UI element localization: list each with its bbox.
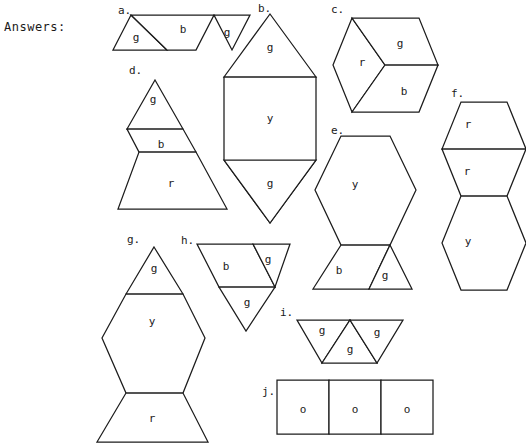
shape-e-piece-y-hexagon-label: y	[352, 178, 359, 191]
shape-f-piece-r-lower-label: r	[464, 165, 471, 178]
shape-b-piece-g-top-label: g	[267, 41, 274, 54]
shape-a-piece-g-right-label: g	[224, 26, 231, 39]
shape-b-piece-g-bottom	[224, 160, 316, 223]
shape-item-f: rryf.	[442, 87, 526, 290]
shape-item-d: gbrd.	[118, 64, 227, 209]
shape-g-piece-y-hexagon-label: y	[149, 315, 156, 328]
shape-d-piece-g-top-label: g	[150, 93, 157, 106]
shape-f-piece-r-lower	[442, 149, 526, 196]
shape-f-piece-r-upper-label: r	[465, 118, 472, 131]
shape-h-piece-b-left-label: b	[223, 260, 230, 273]
shape-item-a-tag: a.	[118, 4, 131, 17]
shape-f-piece-y-hexagon	[442, 196, 526, 290]
shape-item-h: bggh.	[181, 234, 290, 331]
shape-h-piece-g-right-label: g	[265, 253, 272, 266]
answer-sheet: Answers: gbga.gygb.rgbc.gbrd.ybge.rryf.g…	[0, 0, 526, 448]
shape-g-piece-r-bottom-label: r	[149, 412, 156, 425]
shape-item-g-tag: g.	[127, 233, 140, 246]
shape-f-piece-r-upper	[442, 102, 526, 149]
shape-i-piece-g-left-label: g	[319, 324, 326, 337]
shape-d-piece-r-bottom-label: r	[168, 177, 175, 190]
shape-item-i: gggi.	[280, 306, 403, 363]
shape-a-piece-g-left-label: g	[133, 31, 140, 44]
shape-item-e: ybge.	[313, 124, 416, 289]
shape-item-d-tag: d.	[129, 64, 142, 77]
shape-a-piece-g-right	[214, 15, 250, 50]
shape-g-piece-y-hexagon	[102, 294, 205, 393]
shape-item-h-tag: h.	[181, 234, 194, 247]
shape-i-piece-g-right-label: g	[374, 326, 381, 339]
shape-item-g: gyrg.	[97, 233, 208, 442]
shape-item-j: oooj.	[262, 380, 433, 434]
shape-item-f-tag: f.	[451, 87, 464, 100]
shape-item-c-tag: c.	[331, 3, 344, 16]
shape-h-piece-g-bottom-label: g	[244, 296, 251, 309]
shape-e-piece-g-lower-label: g	[382, 269, 389, 282]
shape-i-piece-g-middle-label: g	[347, 343, 354, 356]
shape-j-piece-o-1-label: o	[300, 403, 307, 416]
shape-b-piece-g-bottom-label: g	[267, 177, 274, 190]
shape-item-e-tag: e.	[331, 124, 344, 137]
shape-c-piece-b-lower-label: b	[401, 85, 408, 98]
shape-d-piece-b-middle-label: b	[158, 138, 165, 151]
shape-item-a: gbga.	[113, 4, 250, 50]
shape-item-i-tag: i.	[280, 306, 293, 319]
shape-f-piece-y-hexagon-label: y	[465, 235, 472, 248]
shape-a-piece-b-mid-label: b	[180, 23, 187, 36]
shape-diagram-canvas: gbga.gygb.rgbc.gbrd.ybge.rryf.gyrg.bggh.…	[0, 0, 526, 448]
shape-j-piece-o-3-label: o	[404, 403, 411, 416]
shape-e-piece-y-hexagon	[315, 136, 416, 245]
shape-b-piece-y-middle-label: y	[267, 112, 274, 125]
shape-item-b-tag: b.	[258, 2, 271, 15]
shape-e-piece-b-lower-label: b	[336, 264, 343, 277]
shape-j-piece-o-2-label: o	[352, 403, 359, 416]
shape-c-piece-g-upper-label: g	[397, 37, 404, 50]
shape-g-piece-g-top-label: g	[151, 262, 158, 275]
shape-h-piece-g-bottom	[219, 287, 275, 331]
shape-item-j-tag: j.	[262, 385, 275, 398]
shape-item-c: rgbc.	[331, 3, 438, 112]
shape-c-piece-r-left-label: r	[359, 56, 366, 69]
